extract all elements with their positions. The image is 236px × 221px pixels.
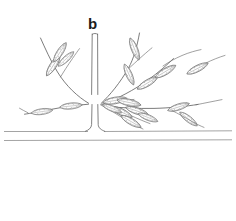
culm-left-lower xyxy=(85,105,92,132)
branch-right-mid-tip xyxy=(206,55,225,63)
spikelet xyxy=(167,101,191,114)
branch-right-mid-group xyxy=(104,50,225,104)
branch-left-diagonal-group xyxy=(41,38,89,103)
ground-line-upper-right xyxy=(104,131,232,132)
branch-right-upper-group xyxy=(102,33,153,103)
panel-label-b: b xyxy=(88,16,97,31)
branch-right-lower-sub xyxy=(172,111,204,128)
culm-right-lower xyxy=(98,105,105,132)
spikelet xyxy=(31,107,53,116)
ground-line-lower xyxy=(4,140,232,141)
spikelet xyxy=(59,102,82,110)
botanical-line-drawing xyxy=(0,0,236,221)
central-spikelet-cluster-group xyxy=(101,95,159,130)
branch-left-horizontal-group xyxy=(20,102,89,116)
botanical-figure-panel: b xyxy=(0,0,236,221)
spikelet xyxy=(154,63,178,81)
branch-right-horizontal-tip xyxy=(196,100,222,105)
culm-tip xyxy=(92,33,97,34)
spikelet xyxy=(127,37,142,62)
spikelet xyxy=(178,110,199,128)
spikelet xyxy=(137,111,159,124)
ground-lines-group xyxy=(4,131,232,141)
culm-left-upper xyxy=(92,34,93,95)
branch-left-horizontal-tip xyxy=(20,108,29,113)
culm-group xyxy=(85,33,104,131)
branch-right-mid xyxy=(104,59,174,104)
